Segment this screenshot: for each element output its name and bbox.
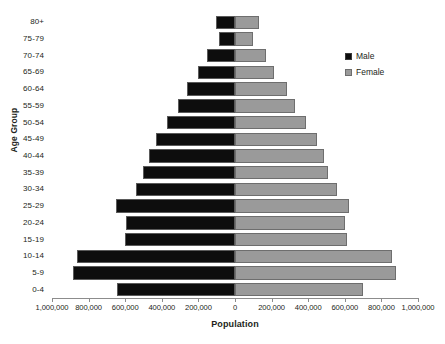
bar-female-40-44	[235, 149, 324, 162]
x-tick-label-7: 400,000	[295, 303, 322, 313]
bar-male-65-69	[198, 66, 235, 79]
x-axis-tick	[162, 298, 163, 302]
bar-male-40-44	[149, 149, 235, 162]
bar-female-0-4	[235, 283, 363, 296]
y-tick-label-40-44: 40-44	[0, 152, 44, 160]
bar-row	[52, 82, 418, 95]
bar-male-15-19	[125, 233, 235, 246]
bar-male-5-9	[73, 266, 235, 279]
legend-item-male[interactable]: Male	[345, 52, 435, 61]
bar-male-35-39	[143, 166, 235, 179]
bar-female-25-29	[235, 199, 349, 212]
x-tick-label-4: 200,000	[185, 303, 212, 313]
bar-row	[52, 183, 418, 196]
x-axis-tick	[52, 298, 53, 302]
y-tick-label-70-74: 70-74	[0, 52, 44, 60]
legend-label-male: Male	[356, 52, 374, 61]
bar-male-60-64	[187, 82, 235, 95]
bar-male-80+	[216, 16, 235, 29]
bar-female-60-64	[235, 82, 287, 95]
bar-row	[52, 32, 418, 45]
x-tick-label-6: 200,000	[258, 303, 285, 313]
bar-row	[52, 133, 418, 146]
y-tick-label-15-19: 15-19	[0, 236, 44, 244]
y-tick-label-45-49: 45-49	[0, 135, 44, 143]
y-tick-label-30-34: 30-34	[0, 185, 44, 193]
x-axis-tick	[308, 298, 309, 302]
y-tick-label-0-4: 0-4	[0, 286, 44, 294]
bar-male-0-4	[117, 283, 235, 296]
y-tick-label-80+: 80+	[0, 18, 44, 26]
bar-female-45-49	[235, 133, 317, 146]
bar-female-10-14	[235, 250, 392, 263]
y-tick-label-25-29: 25-29	[0, 202, 44, 210]
x-tick-label-9: 800,000	[368, 303, 395, 313]
bar-row	[52, 99, 418, 112]
bar-male-45-49	[156, 133, 235, 146]
bar-male-75-79	[219, 32, 235, 45]
y-axis-tick-labels: 0-45-910-1415-1920-2425-2930-3435-3940-4…	[0, 14, 48, 298]
bar-female-70-74	[235, 49, 266, 62]
x-tick-label-3: 400,000	[148, 303, 175, 313]
bar-male-55-59	[178, 99, 235, 112]
legend-item-female[interactable]: Female	[345, 68, 435, 77]
y-tick-label-50-54: 50-54	[0, 119, 44, 127]
bar-row	[52, 16, 418, 29]
bar-female-5-9	[235, 266, 396, 279]
male-swatch-icon	[345, 53, 352, 60]
bar-female-50-54	[235, 116, 306, 129]
y-tick-label-20-24: 20-24	[0, 219, 44, 227]
x-tick-label-0: 1,000,000	[36, 303, 69, 313]
x-axis-tick	[381, 298, 382, 302]
bar-female-35-39	[235, 166, 328, 179]
bar-male-25-29	[116, 199, 235, 212]
female-swatch-icon	[345, 69, 352, 76]
y-tick-label-60-64: 60-64	[0, 85, 44, 93]
bar-male-10-14	[77, 250, 235, 263]
bar-row	[52, 166, 418, 179]
y-tick-label-10-14: 10-14	[0, 252, 44, 260]
x-axis-tick	[125, 298, 126, 302]
y-tick-label-75-79: 75-79	[0, 35, 44, 43]
x-tick-label-5: 0	[233, 303, 237, 313]
bar-male-50-54	[167, 116, 235, 129]
x-tick-label-2: 600,000	[112, 303, 139, 313]
x-tick-label-8: 600,000	[331, 303, 358, 313]
population-pyramid-chart: Age Group 0-45-910-1415-1920-2425-2930-3…	[0, 0, 445, 344]
bar-female-65-69	[235, 66, 274, 79]
y-tick-label-35-39: 35-39	[0, 169, 44, 177]
x-axis-tick	[272, 298, 273, 302]
bar-row	[52, 199, 418, 212]
bar-row	[52, 149, 418, 162]
x-axis-tick	[418, 298, 419, 302]
x-tick-label-10: 1,000,000	[402, 303, 435, 313]
chart-legend: MaleFemale	[345, 52, 435, 84]
bar-female-75-79	[235, 32, 253, 45]
y-tick-label-55-59: 55-59	[0, 102, 44, 110]
bar-female-20-24	[235, 216, 345, 229]
bar-male-30-34	[136, 183, 235, 196]
y-tick-label-65-69: 65-69	[0, 68, 44, 76]
bar-male-70-74	[207, 49, 235, 62]
y-tick-label-5-9: 5-9	[0, 269, 44, 277]
x-axis-tick	[89, 298, 90, 302]
x-axis-tick-labels: 1,000,000800,000600,000400,000200,000020…	[0, 303, 445, 317]
bar-female-15-19	[235, 233, 347, 246]
x-tick-label-1: 800,000	[75, 303, 102, 313]
bar-female-30-34	[235, 183, 337, 196]
bar-male-20-24	[126, 216, 235, 229]
x-axis-tick	[235, 298, 236, 302]
bar-female-55-59	[235, 99, 295, 112]
bar-female-80+	[235, 16, 259, 29]
bar-row	[52, 250, 418, 263]
x-axis-title: Population	[52, 319, 418, 329]
bar-row	[52, 266, 418, 279]
legend-label-female: Female	[356, 68, 384, 77]
bar-row	[52, 233, 418, 246]
x-axis-tick	[198, 298, 199, 302]
x-axis-tick	[345, 298, 346, 302]
bar-row	[52, 216, 418, 229]
bar-row	[52, 283, 418, 296]
bar-row	[52, 116, 418, 129]
